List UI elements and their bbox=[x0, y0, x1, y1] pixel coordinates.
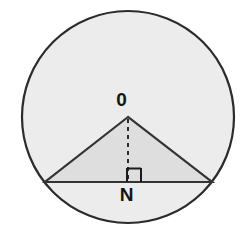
geometry-figure: 0 N bbox=[0, 0, 245, 237]
vertex-label-foot: N bbox=[4, 185, 245, 204]
vertex-label-center: 0 bbox=[0, 90, 244, 109]
